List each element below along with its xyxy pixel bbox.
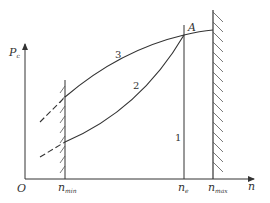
- origin-label: O: [17, 183, 26, 194]
- curve-2-label: 2: [133, 81, 139, 91]
- curve-2-dashed-extension: [40, 142, 65, 157]
- tick-n-max: nmax: [208, 182, 228, 194]
- curve-3-dashed-extension: [40, 97, 65, 122]
- tick-n-min: nmin: [58, 182, 77, 194]
- curve-1-label: 1: [175, 133, 181, 143]
- diagram-graphics: [0, 0, 270, 203]
- curve-3-label: 3: [115, 50, 121, 60]
- curve-2: [65, 35, 184, 142]
- y-axis-label: Pc: [9, 47, 20, 59]
- n-min-boundary: [60, 80, 65, 179]
- diagram-canvas: Pc O n nmin ne nmax A 3 2 1: [0, 0, 270, 203]
- x-axis-label: n: [248, 181, 255, 192]
- n-max-boundary: [213, 10, 223, 179]
- point-a-label: A: [188, 22, 196, 33]
- tick-n-e: ne: [178, 182, 189, 194]
